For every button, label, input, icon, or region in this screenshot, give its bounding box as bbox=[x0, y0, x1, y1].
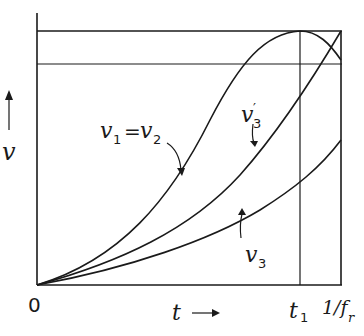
curve-v1-v2 bbox=[37, 31, 341, 285]
svg-text:r: r bbox=[348, 310, 355, 325]
pointer-v3 bbox=[240, 214, 242, 238]
up-arrow-icon bbox=[5, 90, 13, 100]
x-axis-label: t bbox=[172, 300, 181, 325]
svg-text:v: v bbox=[245, 242, 258, 267]
svg-text:=: = bbox=[124, 119, 141, 143]
right-arrow-icon bbox=[212, 309, 220, 317]
label-t1: t 1 bbox=[289, 298, 308, 325]
svg-text:′: ′ bbox=[253, 100, 256, 115]
pointer-v3-head bbox=[238, 208, 246, 215]
curve-v3 bbox=[37, 140, 341, 285]
svg-text:1: 1 bbox=[300, 310, 308, 325]
label-v3-prime: v ′ 3 bbox=[241, 100, 261, 131]
label-v3: v 3 bbox=[245, 242, 266, 271]
svg-text:t: t bbox=[289, 298, 298, 323]
y-axis-label: v bbox=[2, 138, 16, 166]
svg-text:1/f: 1/f bbox=[322, 296, 350, 318]
pointer-v1-v2 bbox=[167, 143, 181, 170]
svg-text:1: 1 bbox=[113, 132, 121, 147]
svg-text:3: 3 bbox=[258, 256, 266, 271]
svg-text:v: v bbox=[140, 118, 153, 143]
svg-text:3: 3 bbox=[253, 116, 261, 131]
svg-text:v: v bbox=[100, 118, 113, 143]
svg-text:2: 2 bbox=[153, 132, 161, 147]
diagram-canvas: v 0 t v 1 = v 2 v ′ 3 v 3 t 1 1/f r bbox=[0, 0, 364, 336]
origin-label: 0 bbox=[28, 293, 41, 317]
label-v1-v2: v 1 = v 2 bbox=[100, 118, 161, 147]
label-1-over-fr: 1/f r bbox=[322, 296, 355, 325]
pointer-v3-prime-head bbox=[250, 141, 258, 147]
